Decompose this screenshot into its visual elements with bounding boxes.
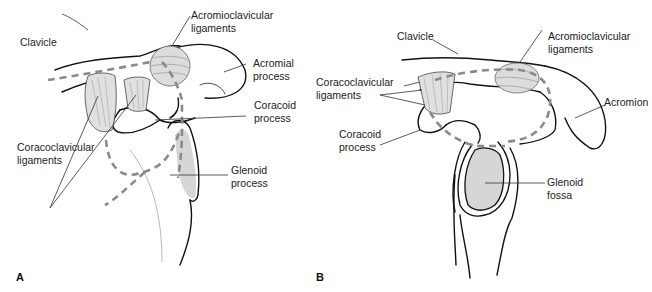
- label-b-coracoclavicular-line2: ligaments: [316, 89, 394, 102]
- label-a-glenoid-line2: process: [231, 177, 268, 190]
- label-a-acromioclavicular-ligaments: Acromioclavicular ligaments: [191, 9, 273, 35]
- label-a-acromioclavicular-line1: Acromioclavicular: [191, 9, 273, 22]
- conoid-ligament-a: [85, 73, 116, 132]
- label-a-glenoid-process: Glenoid process: [231, 164, 268, 190]
- label-a-coracoid-line2: process: [254, 112, 296, 125]
- label-a-acromial-line1: Acromial: [253, 57, 294, 70]
- label-a-clavicle: Clavicle: [20, 36, 57, 49]
- label-a-coracoid-line1: Coracoid: [254, 99, 296, 112]
- label-b-acromioclavicular-line2: ligaments: [548, 43, 630, 56]
- label-a-acromial-process: Acromial process: [253, 57, 294, 83]
- label-a-coracoclavicular-line2: ligaments: [17, 154, 95, 167]
- label-a-coracoclavicular-ligaments: Coracoclavicular ligaments: [17, 141, 95, 167]
- panel-letter-a: A: [16, 271, 24, 283]
- label-b-coracoclavicular-ligaments: Coracoclavicular ligaments: [316, 76, 394, 102]
- label-b-coracoid-process: Coracoid process: [339, 128, 381, 154]
- label-b-glenoid-line1: Glenoid: [547, 176, 583, 189]
- label-b-coracoclavicular-line1: Coracoclavicular: [316, 76, 394, 89]
- label-b-coracoid-line1: Coracoid: [339, 128, 381, 141]
- acromioclavicular-ligament-b: [495, 63, 539, 93]
- label-a-acromioclavicular-line2: ligaments: [191, 22, 273, 35]
- label-b-acromion: Acromion: [604, 96, 648, 109]
- label-a-coracoclavicular-line1: Coracoclavicular: [17, 141, 95, 154]
- label-b-acromioclavicular-line1: Acromioclavicular: [548, 30, 630, 43]
- shoulder-anatomy-figure: Clavicle Acromioclavicular ligaments Acr…: [0, 0, 652, 292]
- label-b-coracoid-line2: process: [339, 141, 381, 154]
- label-a-glenoid-line1: Glenoid: [231, 164, 268, 177]
- label-a-acromial-line2: process: [253, 70, 294, 83]
- label-b-glenoid-line2: fossa: [547, 189, 583, 202]
- label-b-clavicle: Clavicle: [397, 30, 434, 43]
- label-b-acromioclavicular-ligaments: Acromioclavicular ligaments: [548, 30, 630, 56]
- label-a-coracoid-process: Coracoid process: [254, 99, 296, 125]
- label-b-glenoid-fossa: Glenoid fossa: [547, 176, 583, 202]
- panel-letter-b: B: [316, 271, 324, 283]
- glenoid-fossa-fill: [465, 148, 504, 210]
